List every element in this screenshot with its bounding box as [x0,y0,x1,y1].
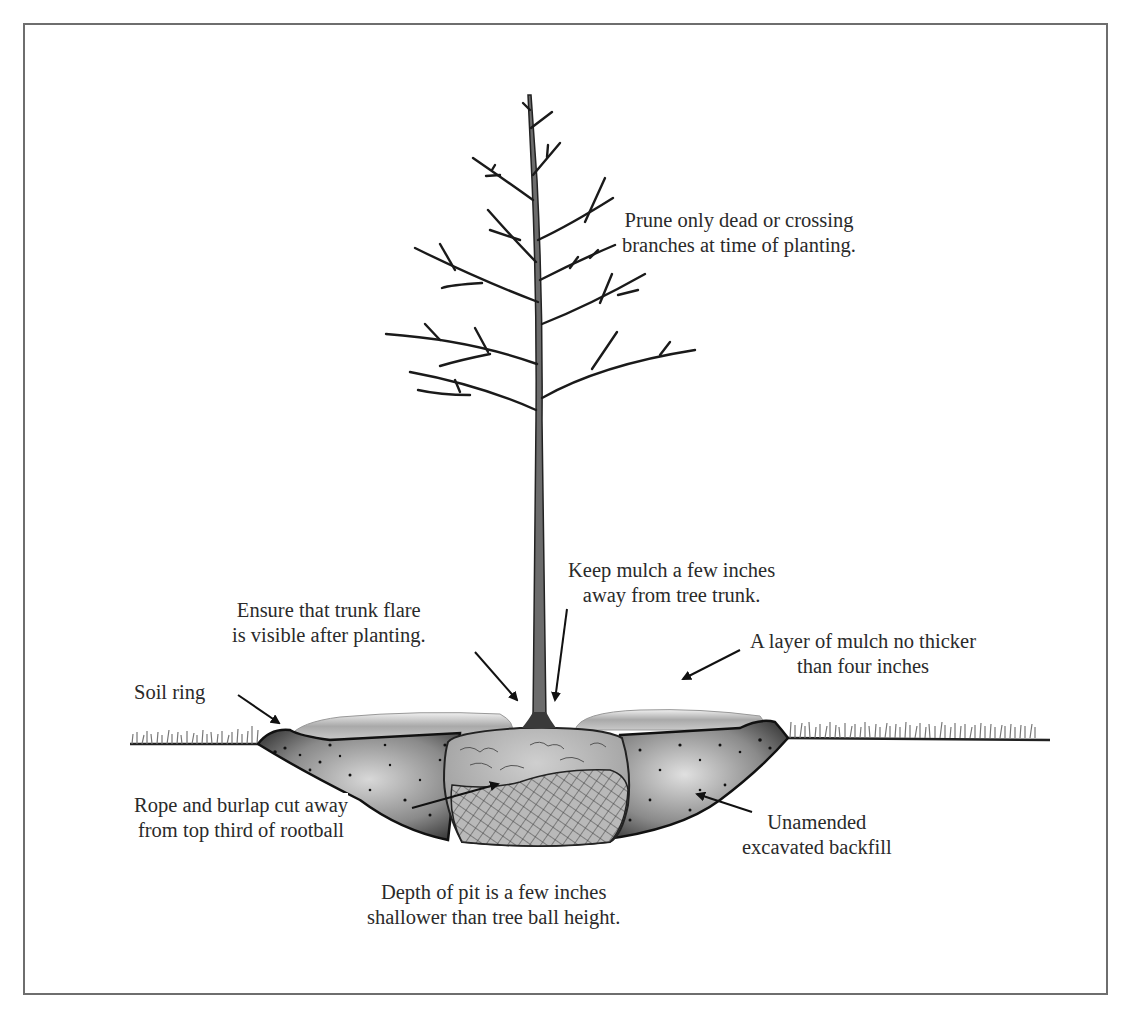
label-mulch-distance-line2: away from tree trunk. [568,583,775,608]
tree-planting-illustration [0,0,1131,1019]
label-mulch-layer: A layer of mulch no thicker than four in… [750,629,976,679]
label-prune-line1: Prune only dead or crossing [622,208,856,233]
label-trunk-flare-line1: Ensure that trunk flare [232,598,426,623]
label-burlap: Rope and burlap cut away from top third … [134,793,348,843]
label-backfill-line2: excavated backfill [742,835,892,860]
label-mulch-distance: Keep mulch a few inches away from tree t… [568,558,775,608]
trunk-flare [522,712,556,728]
arrow-soil-ring [238,695,279,723]
label-soil-ring-line1: Soil ring [134,680,205,705]
label-pit-depth-line2: shallower than tree ball height. [367,905,620,930]
label-prune-line2: branches at time of planting. [622,233,856,258]
label-mulch-layer-line1: A layer of mulch no thicker [750,629,976,654]
label-trunk-flare-line2: is visible after planting. [232,623,426,648]
grass-right [785,722,1050,740]
label-backfill-line1: Unamended [742,810,892,835]
label-mulch-distance-line1: Keep mulch a few inches [568,558,775,583]
label-burlap-line1: Rope and burlap cut away [134,793,348,818]
label-backfill: Unamended excavated backfill [742,810,892,860]
label-mulch-layer-line2: than four inches [750,654,976,679]
grass-left [130,726,262,744]
label-pit-depth: Depth of pit is a few inches shallower t… [367,880,620,930]
label-prune-branches: Prune only dead or crossing branches at … [622,208,856,258]
arrow-mulch-layer [683,650,740,679]
label-trunk-flare: Ensure that trunk flare is visible after… [232,598,426,648]
arrow-mulch-distance [555,609,567,700]
label-pit-depth-line1: Depth of pit is a few inches [367,880,620,905]
arrow-trunk-flare [475,652,517,700]
label-burlap-line2: from top third of rootball [134,818,348,843]
label-soil-ring: Soil ring [134,680,205,705]
